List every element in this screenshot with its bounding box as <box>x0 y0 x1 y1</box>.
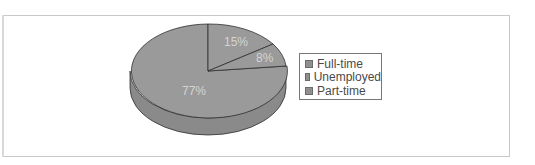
legend-item-full-time: Full-time <box>305 57 381 71</box>
legend-item-unemployed: Unemployed <box>305 71 381 85</box>
label-part-time: 77% <box>182 84 206 98</box>
legend-label: Full-time <box>317 57 363 71</box>
legend-swatch-icon <box>305 73 310 81</box>
legend-label: Unemployed <box>314 70 381 84</box>
legend-swatch-icon <box>305 60 313 68</box>
legend-label: Part-time <box>317 84 366 98</box>
label-full-time: 15% <box>224 35 248 49</box>
legend-swatch-icon <box>305 87 313 95</box>
legend-item-part-time: Part-time <box>305 84 381 98</box>
label-unemployed: 8% <box>256 51 274 65</box>
pie-chart: 15% 8% 77% <box>0 0 535 165</box>
chart-legend: Full-time Unemployed Part-time <box>299 53 382 100</box>
